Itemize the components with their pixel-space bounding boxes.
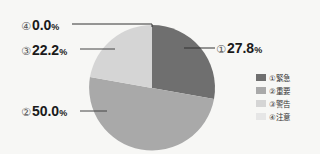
legend-swatch <box>256 74 266 81</box>
pie-slice-kinkyu <box>152 25 215 99</box>
legend-swatch <box>256 100 266 107</box>
pie-slice-keikoku <box>90 25 152 88</box>
legend-swatch <box>256 113 266 120</box>
data-label-kinkyu: ①27.8% <box>216 41 262 57</box>
legend-item-keikoku: ③警告 <box>256 98 290 108</box>
legend-item-kinkyu: ①緊急 <box>256 72 290 82</box>
chart-legend: ①緊急 ②重要 ③警告 ④注意 <box>256 72 290 124</box>
legend-item-juyo: ②重要 <box>256 85 290 95</box>
legend-swatch <box>256 87 266 94</box>
data-label-keikoku: ③22.2% <box>21 43 67 59</box>
data-label-juyo: ②50.0% <box>21 104 67 120</box>
data-label-chui: ④0.0% <box>21 18 59 34</box>
legend-item-chui: ④注意 <box>256 111 290 121</box>
